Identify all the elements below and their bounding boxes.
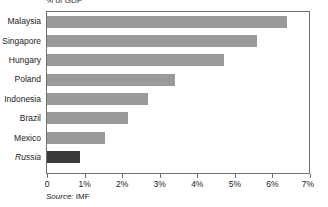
x-axis-tick-label-4: 4% bbox=[191, 179, 203, 189]
y-axis-label-poland: Poland bbox=[0, 70, 43, 89]
bar-row bbox=[47, 31, 310, 50]
y-axis-label-russia: Russia bbox=[0, 148, 43, 167]
chart-title: % of GDP bbox=[46, 0, 82, 5]
x-axis-tick-label-0: 0 bbox=[45, 179, 50, 189]
source-note: Source: IMF bbox=[46, 192, 90, 202]
x-axis-tick bbox=[160, 174, 161, 178]
bar-row bbox=[47, 148, 310, 167]
x-axis-tick-label-7: 7% bbox=[302, 179, 314, 189]
bar-brazil bbox=[47, 112, 128, 124]
x-axis-tick-label-5: 5% bbox=[229, 179, 241, 189]
x-axis-tick bbox=[197, 174, 198, 178]
x-axis-tick bbox=[310, 174, 311, 178]
x-axis-tick bbox=[47, 174, 48, 178]
bar-singapore bbox=[47, 35, 257, 47]
bar-indonesia bbox=[47, 93, 148, 105]
x-axis-tick bbox=[122, 174, 123, 178]
x-axis-tick-label-6: 6% bbox=[266, 179, 278, 189]
x-axis-tick bbox=[85, 174, 86, 178]
y-axis-category-labels: Malaysia Singapore Hungary Poland Indone… bbox=[0, 12, 43, 173]
bar-poland bbox=[47, 74, 175, 86]
bars-container bbox=[47, 12, 310, 173]
bar-row bbox=[47, 128, 310, 147]
y-axis-label-singapore: Singapore bbox=[0, 31, 43, 50]
y-axis-label-mexico: Mexico bbox=[0, 128, 43, 147]
bar-row bbox=[47, 51, 310, 70]
bar-russia bbox=[47, 151, 80, 163]
y-axis-label-indonesia: Indonesia bbox=[0, 90, 43, 109]
bar-malaysia bbox=[47, 16, 287, 28]
bar-mexico bbox=[47, 132, 105, 144]
x-axis-tick bbox=[272, 174, 273, 178]
bar-row bbox=[47, 109, 310, 128]
source-prefix: Source: bbox=[46, 192, 74, 201]
x-axis-tick-label-1: 1% bbox=[78, 179, 90, 189]
bar-chart: % of GDP Malaysia Singapore Hungary Pola… bbox=[0, 0, 328, 207]
bar-row bbox=[47, 70, 310, 89]
y-axis-label-malaysia: Malaysia bbox=[0, 12, 43, 31]
x-axis-tick-label-3: 3% bbox=[154, 179, 166, 189]
y-axis-label-brazil: Brazil bbox=[0, 109, 43, 128]
bar-row bbox=[47, 12, 310, 31]
x-axis-tick bbox=[235, 174, 236, 178]
bar-hungary bbox=[47, 54, 224, 66]
x-axis-tick-label-2: 2% bbox=[116, 179, 128, 189]
bar-row bbox=[47, 90, 310, 109]
source-value: IMF bbox=[76, 192, 90, 201]
y-axis-label-hungary: Hungary bbox=[0, 51, 43, 70]
